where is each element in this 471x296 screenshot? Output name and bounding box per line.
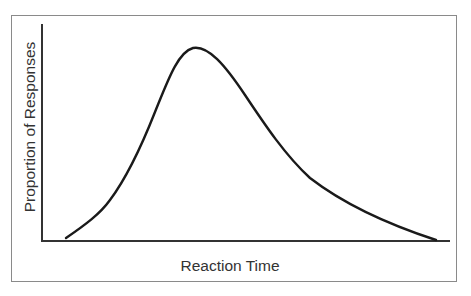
- x-axis-label: Reaction Time: [130, 257, 330, 275]
- chart-plot-area: [0, 0, 471, 296]
- distribution-curve: [66, 48, 436, 240]
- y-axis-label: Proportion of Responses: [21, 27, 39, 227]
